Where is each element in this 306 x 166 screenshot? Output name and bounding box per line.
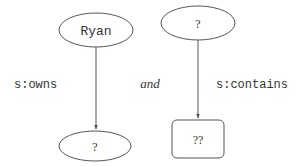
- diagram-canvas: Ryan s:owns ? and ? s:contains ??: [0, 0, 306, 166]
- node-right-unknown-label: ?: [195, 17, 200, 31]
- edge-owns-label: s:owns: [14, 78, 57, 92]
- connector-and: and: [140, 76, 160, 91]
- left-graph: Ryan s:owns ?: [14, 13, 133, 161]
- right-graph: ? s:contains ??: [161, 6, 288, 158]
- node-literal-label: ??: [193, 133, 204, 147]
- node-left-unknown-label: ?: [92, 140, 97, 154]
- edge-contains-label: s:contains: [216, 78, 288, 92]
- node-ryan-label: Ryan: [80, 24, 111, 39]
